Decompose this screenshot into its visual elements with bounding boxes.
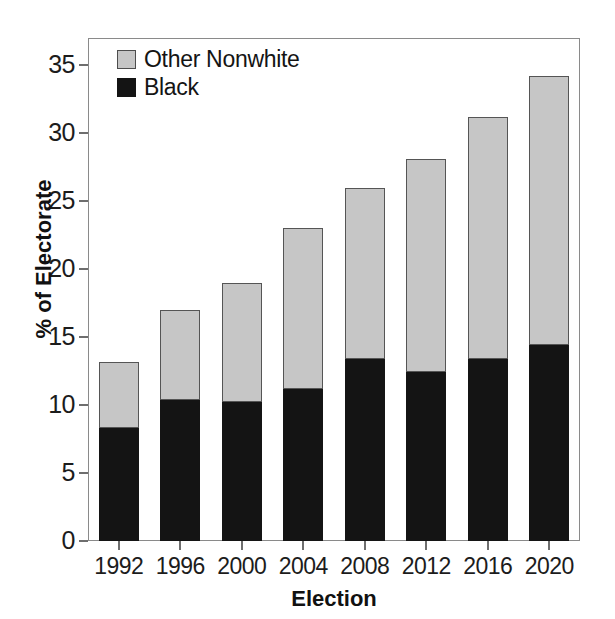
bar-segment-black[interactable] bbox=[160, 400, 200, 541]
y-tick-mark bbox=[79, 404, 88, 406]
x-tick-label: 2020 bbox=[509, 553, 589, 580]
y-tick-mark bbox=[79, 540, 88, 542]
y-tick-label: 5 bbox=[62, 458, 75, 486]
bar-segment-other-nonwhite[interactable] bbox=[222, 283, 262, 403]
bar-1992[interactable] bbox=[99, 362, 139, 541]
x-axis-title: Election bbox=[88, 586, 580, 612]
legend-swatch-black-icon bbox=[117, 78, 136, 97]
bar-2020[interactable] bbox=[529, 76, 569, 541]
legend-label-black: Black bbox=[144, 74, 199, 101]
bar-2004[interactable] bbox=[283, 228, 323, 541]
legend-swatch-other-nonwhite-icon bbox=[117, 50, 136, 69]
y-tick-mark bbox=[79, 472, 88, 474]
bar-segment-black[interactable] bbox=[468, 359, 508, 541]
y-tick-label: 0 bbox=[62, 526, 75, 554]
x-tick-mark bbox=[425, 541, 427, 550]
y-tick-mark bbox=[79, 336, 88, 338]
bar-segment-other-nonwhite[interactable] bbox=[99, 362, 139, 429]
y-tick-mark bbox=[79, 64, 88, 66]
bars-layer bbox=[88, 38, 580, 541]
y-tick-mark bbox=[79, 268, 88, 270]
legend-item-black[interactable]: Black bbox=[117, 73, 300, 101]
legend-item-other-nonwhite[interactable]: Other Nonwhite bbox=[117, 45, 300, 73]
bar-segment-black[interactable] bbox=[345, 359, 385, 541]
bar-segment-other-nonwhite[interactable] bbox=[468, 117, 508, 359]
bar-segment-black[interactable] bbox=[406, 372, 446, 541]
bar-segment-other-nonwhite[interactable] bbox=[406, 159, 446, 372]
x-tick-mark bbox=[302, 541, 304, 550]
y-tick-mark bbox=[79, 200, 88, 202]
bar-2000[interactable] bbox=[222, 283, 262, 541]
x-tick-mark bbox=[241, 541, 243, 550]
y-axis-title: % of Electorate bbox=[31, 119, 57, 399]
bar-segment-other-nonwhite[interactable] bbox=[345, 188, 385, 359]
chart-legend: Other Nonwhite Black bbox=[117, 45, 300, 101]
bar-1996[interactable] bbox=[160, 310, 200, 541]
x-tick-mark bbox=[118, 541, 120, 550]
bar-segment-black[interactable] bbox=[283, 389, 323, 541]
bar-2016[interactable] bbox=[468, 117, 508, 541]
bar-segment-other-nonwhite[interactable] bbox=[283, 228, 323, 388]
x-tick-mark bbox=[179, 541, 181, 550]
y-tick-label: 35 bbox=[48, 50, 75, 78]
bar-segment-black[interactable] bbox=[99, 428, 139, 541]
bar-2012[interactable] bbox=[406, 159, 446, 541]
bar-segment-black[interactable] bbox=[222, 402, 262, 541]
chart-figure: 05101520253035 % of Electorate Other Non… bbox=[0, 0, 615, 619]
bar-segment-other-nonwhite[interactable] bbox=[529, 76, 569, 345]
x-tick-mark bbox=[487, 541, 489, 550]
bar-segment-other-nonwhite[interactable] bbox=[160, 310, 200, 400]
x-tick-mark bbox=[364, 541, 366, 550]
legend-label-other-nonwhite: Other Nonwhite bbox=[144, 46, 300, 73]
x-tick-mark bbox=[548, 541, 550, 550]
bar-2008[interactable] bbox=[345, 188, 385, 541]
x-axis: Election 1992199620002004200820122016202… bbox=[88, 541, 580, 619]
bar-segment-black[interactable] bbox=[529, 345, 569, 541]
y-tick-mark bbox=[79, 132, 88, 134]
